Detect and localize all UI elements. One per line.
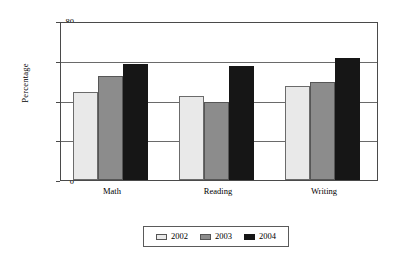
bar-writing-2003 xyxy=(310,82,335,180)
legend-item-2004: 2004 xyxy=(244,232,276,241)
x-cat-label-reading: Reading xyxy=(188,186,248,196)
x-cat-label-math: Math xyxy=(82,186,142,196)
bar-reading-2003 xyxy=(204,102,229,181)
legend-label-2003: 2003 xyxy=(215,232,232,241)
bar-math-2003 xyxy=(98,76,123,180)
y-axis-title: Percentage xyxy=(20,33,30,133)
legend-label-2002: 2002 xyxy=(171,232,188,241)
bar-math-2002 xyxy=(73,92,98,180)
gridline-60 xyxy=(61,62,377,63)
bar-reading-2004 xyxy=(229,66,254,180)
bar-chart-figure: Percentage 80 60 40 20 0 Math Reading Wr… xyxy=(0,0,399,268)
y-tick-mark-0 xyxy=(56,181,60,182)
bar-writing-2004 xyxy=(335,58,360,180)
legend-swatch-icon-2002 xyxy=(156,234,167,240)
x-cat-label-writing: Writing xyxy=(294,186,354,196)
legend-label-2004: 2004 xyxy=(259,232,276,241)
legend-item-2002: 2002 xyxy=(156,232,188,241)
legend-swatch-icon-2004 xyxy=(244,234,255,240)
bar-writing-2002 xyxy=(285,86,310,180)
bar-math-2004 xyxy=(123,64,148,180)
bar-reading-2002 xyxy=(179,96,204,180)
legend-swatch-icon-2003 xyxy=(200,234,211,240)
chart-legend: 2002 2003 2004 xyxy=(143,226,289,247)
plot-area xyxy=(60,22,378,181)
legend-item-2003: 2003 xyxy=(200,232,232,241)
